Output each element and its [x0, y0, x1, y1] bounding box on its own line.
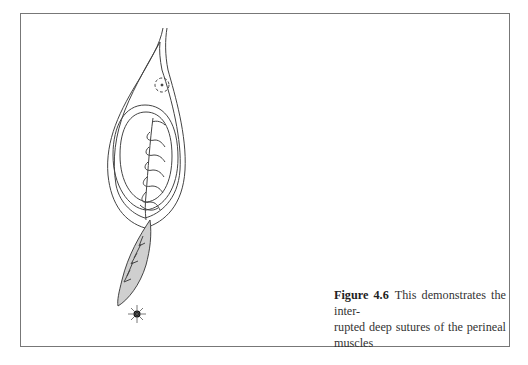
interrupted-suture — [152, 121, 165, 125]
vaginal-wall-outline — [120, 112, 172, 202]
caption-line-2: rupted deep sutures of the perineal musc… — [334, 320, 506, 350]
anus-mark — [128, 305, 146, 323]
vaginal-introitus-outline — [113, 105, 178, 210]
figure-label: Figure 4.6 — [334, 288, 389, 302]
figure-caption: Figure 4.6This demonstrates the inter- r… — [334, 287, 506, 351]
